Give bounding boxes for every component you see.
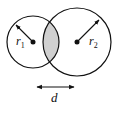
radius-1-label: r1: [16, 34, 25, 50]
intersecting-circles-diagram: r1 r2 d: [0, 0, 121, 115]
radius-2-label: r2: [89, 34, 98, 50]
distance-label: d: [51, 90, 58, 105]
radius-2-arrow: [77, 20, 99, 42]
